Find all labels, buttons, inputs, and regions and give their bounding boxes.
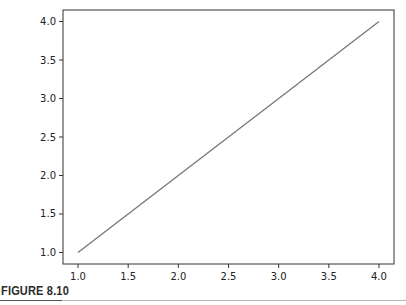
y-tick-label: 1.0 — [40, 247, 56, 258]
y-tick-label: 4.0 — [40, 16, 56, 27]
y-tick-label: 3.5 — [40, 55, 56, 66]
data-line — [78, 22, 379, 253]
y-tick-label: 3.0 — [40, 93, 56, 104]
x-tick-label: 2.5 — [221, 271, 237, 282]
x-tick-label: 2.0 — [170, 271, 186, 282]
y-axis: 1.01.52.02.53.03.54.0 — [40, 16, 63, 258]
caption-rule-accent — [0, 300, 62, 301]
x-tick-label: 1.0 — [70, 271, 86, 282]
y-tick-label: 2.0 — [40, 170, 56, 181]
y-tick-label: 2.5 — [40, 132, 56, 143]
x-tick-label: 4.0 — [371, 271, 387, 282]
x-tick-label: 3.0 — [271, 271, 287, 282]
line-chart: 1.01.52.02.53.03.54.0 1.01.52.02.53.03.5… — [0, 0, 406, 285]
figure-caption: FIGURE 8.10 — [1, 284, 69, 298]
x-tick-label: 1.5 — [120, 271, 136, 282]
x-axis: 1.01.52.02.53.03.54.0 — [70, 264, 387, 282]
y-tick-label: 1.5 — [40, 208, 56, 219]
x-tick-label: 3.5 — [321, 271, 337, 282]
